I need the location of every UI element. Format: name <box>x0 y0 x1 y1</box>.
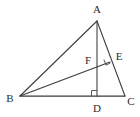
vertex-label-F: F <box>85 55 91 66</box>
vertex-label-D: D <box>93 103 101 114</box>
vertex-label-E: E <box>116 51 123 62</box>
geometry-figure: A B C D E F <box>0 0 140 117</box>
vertex-label-B: B <box>6 93 13 104</box>
vertex-label-C: C <box>127 96 134 107</box>
right-angle-marker-D <box>92 91 98 97</box>
vertex-label-A: A <box>93 4 101 15</box>
